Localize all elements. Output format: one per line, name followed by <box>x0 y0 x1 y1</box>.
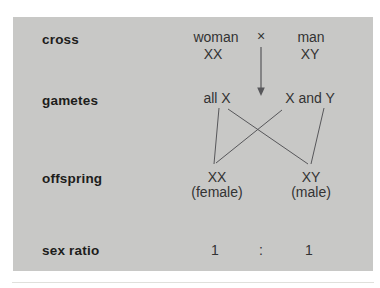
mother-gametes: all X <box>203 90 230 106</box>
father-gametes: X and Y <box>285 90 335 106</box>
line-allx-to-xy <box>228 109 308 164</box>
page-edge-rule <box>12 282 374 283</box>
sex-ratio-male-value: 1 <box>305 242 313 258</box>
cross-arrow-head <box>257 88 265 97</box>
row-label-sex-ratio: sex ratio <box>42 243 99 258</box>
line-allx-to-xx <box>214 108 219 164</box>
diagram-panel: cross gametes offspring sex ratio woman … <box>13 17 373 271</box>
mother-name: woman <box>193 29 238 45</box>
offspring-female-genotype: XX <box>208 169 227 185</box>
row-label-gametes: gametes <box>42 93 98 108</box>
father-genotype: XY <box>301 46 320 62</box>
line-xandy-to-xx <box>216 110 282 163</box>
sex-ratio-separator: : <box>259 242 263 258</box>
offspring-male-label: (male) <box>291 184 331 200</box>
figure: cross gametes offspring sex ratio woman … <box>0 0 380 288</box>
row-label-cross: cross <box>42 32 79 47</box>
offspring-female-label: (female) <box>191 184 242 200</box>
father-name: man <box>297 29 324 45</box>
cross-symbol: × <box>257 28 265 44</box>
sex-ratio-female-value: 1 <box>211 242 219 258</box>
line-xandy-to-xy <box>311 108 324 164</box>
row-label-offspring: offspring <box>42 171 102 186</box>
offspring-male-genotype: XY <box>302 169 321 185</box>
mother-genotype: XX <box>204 46 223 62</box>
